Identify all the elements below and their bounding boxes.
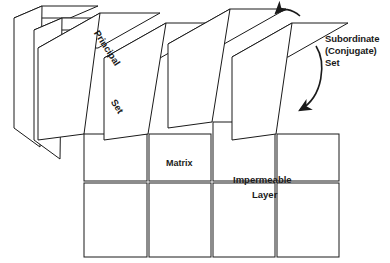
subordinate-label-line1: Subordinate <box>325 33 379 45</box>
block-faces <box>14 6 348 257</box>
curved-arrow-icon-bottom <box>300 46 322 110</box>
subordinate-label-line3: Set <box>325 57 339 69</box>
layer-label: Layer <box>252 189 277 200</box>
diagram-canvas: Principal Set Matrix Impermeable Layer S… <box>0 0 390 263</box>
subordinate-label-line2: (Conjugate) <box>325 45 377 57</box>
matrix-label: Matrix <box>166 158 193 168</box>
impermeable-label: Impermeable <box>233 174 292 185</box>
